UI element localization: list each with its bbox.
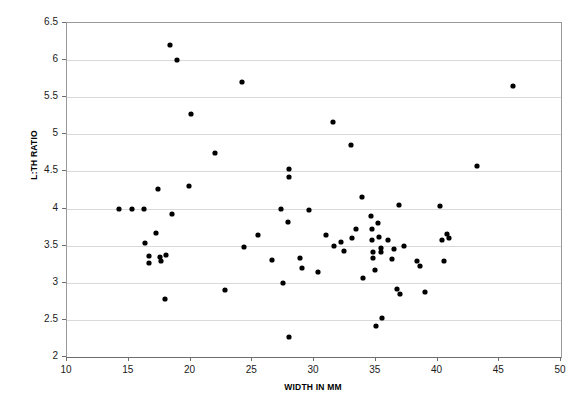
- x-tick-label: 25: [246, 365, 257, 375]
- x-tick-mark: [190, 357, 191, 361]
- scatter-chart: 22.533.544.555.566.5 101520253035404550 …: [0, 0, 587, 410]
- x-tick-label: 45: [493, 365, 504, 375]
- y-axis-title: L:TH RATIO: [29, 115, 39, 195]
- x-tick-label: 35: [369, 365, 380, 375]
- x-axis-tick-labels: 101520253035404550: [0, 0, 587, 410]
- x-tick-label: 30: [307, 365, 318, 375]
- x-tick-mark: [560, 357, 561, 361]
- x-tick-label: 15: [122, 365, 133, 375]
- x-axis-title: WIDTH IN MM: [66, 382, 560, 392]
- x-tick-mark: [313, 357, 314, 361]
- x-tick-label: 20: [184, 365, 195, 375]
- x-tick-mark: [128, 357, 129, 361]
- x-tick-mark: [375, 357, 376, 361]
- x-tick-label: 50: [554, 365, 565, 375]
- x-tick-label: 10: [60, 365, 71, 375]
- x-tick-label: 40: [431, 365, 442, 375]
- x-tick-mark: [437, 357, 438, 361]
- x-tick-mark: [251, 357, 252, 361]
- x-tick-mark: [498, 357, 499, 361]
- x-tick-mark: [66, 357, 67, 361]
